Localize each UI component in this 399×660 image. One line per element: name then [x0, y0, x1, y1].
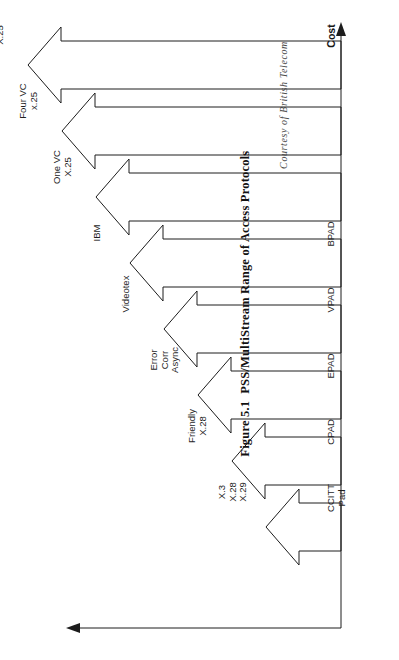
figure-caption: Figure 5.1PSS/MultiStream Range of Acces… [223, 140, 268, 470]
figure-caption-number: Figure 5.1 [238, 401, 252, 457]
figure-page: OPEN SYSTEMS Full [0, 0, 399, 660]
arrow-error-corr-async [198, 357, 341, 433]
arrow-one-vc-x25 [96, 159, 341, 235]
axis-tick-ccitt-pad: CCITT Pad [326, 469, 347, 527]
arrow-label-one-vc-x25: One VC X.25 [52, 137, 73, 197]
arrow-label-videotex: Videotex [121, 259, 132, 329]
arrow-label-ibm: IBM [92, 203, 103, 263]
cost-axis-arrowhead [336, 22, 346, 36]
axis-tick-vpad: VPAD [326, 271, 337, 329]
axis-name-cost: Cost [325, 6, 337, 66]
arrow-full-x25 [28, 27, 341, 103]
arrow-label-error-corr-async: Error Corr Async [149, 325, 181, 395]
arrow-label-four-vc-x25: Four VC x.25 [18, 71, 39, 131]
arrow-label-full-x25: Full X.25 [0, 5, 5, 65]
axis-tick-cpad: CPAD [326, 403, 337, 461]
arrow-four-vc-x25 [62, 93, 341, 169]
figure-drawing [0, 0, 399, 660]
courtesy-note: Courtesy of British Telecom [278, 10, 289, 200]
axis-tick-epad: EPAD [326, 337, 337, 395]
figure-caption-title: PSS/MultiStream Range of Access Protocol… [238, 151, 252, 394]
functionality-axis-arrowhead [66, 623, 80, 633]
arrow-label-friendly-x28: Friendly X.28 [187, 391, 208, 461]
axis-tick-bpad: BPAD [326, 205, 337, 263]
